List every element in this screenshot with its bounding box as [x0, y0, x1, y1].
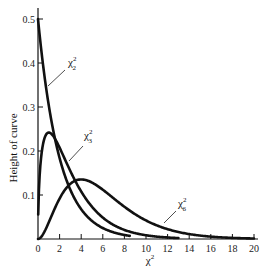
y-axis-title: Height of curve: [7, 113, 19, 182]
curve-label-df2: χ22: [67, 55, 77, 72]
leader-line: [69, 146, 83, 161]
x-tick-label: 18: [227, 243, 237, 254]
x-tick-label: 16: [206, 243, 216, 254]
y-tick-label: 0.3: [23, 102, 36, 113]
x-tick-label: 4: [79, 243, 84, 254]
x-tick-label: 8: [122, 243, 127, 254]
curves: [38, 19, 254, 239]
x-tick-label: 0: [36, 243, 41, 254]
y-tick-label: 0.1: [23, 190, 36, 201]
x-axis-title: χ2: [145, 253, 155, 266]
leader-line: [48, 70, 65, 86]
curve-label-df6: χ26: [177, 196, 187, 213]
curve-label-df3: χ23: [83, 128, 93, 145]
curve-chi2-df2: [38, 19, 130, 236]
x-tick-label: 20: [249, 243, 259, 254]
curve-chi2-df3: [38, 133, 178, 239]
y-tick-label: 0.2: [23, 146, 36, 157]
x-tick-label: 2: [57, 243, 62, 254]
x-tick-label: 14: [184, 243, 194, 254]
y-tick-label: 0.4: [23, 58, 36, 69]
x-axis-title-sup: 2: [151, 253, 155, 261]
x-tick-label: 12: [163, 243, 173, 254]
chi-square-chart: 02468101214161820 0.10.20.30.40.5 χ22χ23…: [0, 0, 270, 273]
leader-line: [164, 211, 176, 223]
y-tick-label: 0.5: [23, 14, 36, 25]
curve-labels: χ22χ23χ26: [48, 55, 187, 223]
x-tick-label: 10: [141, 243, 151, 254]
x-tick-label: 6: [100, 243, 105, 254]
